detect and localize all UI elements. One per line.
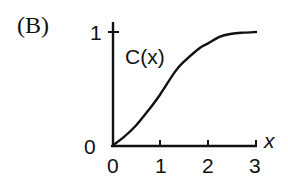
x-tick-label-1: 1 — [155, 154, 167, 177]
x-tick-label-3: 3 — [249, 154, 261, 177]
x-tick-label-2: 2 — [202, 154, 214, 177]
chart-plot: 1 0 0 1 2 3 x C(x) — [0, 0, 288, 179]
y-tick-label-1: 1 — [90, 21, 102, 44]
x-axis-label: x — [263, 129, 276, 152]
x-tick-label-0: 0 — [107, 154, 119, 177]
y-tick-label-0: 0 — [84, 135, 96, 158]
curve-label: C(x) — [125, 45, 165, 68]
